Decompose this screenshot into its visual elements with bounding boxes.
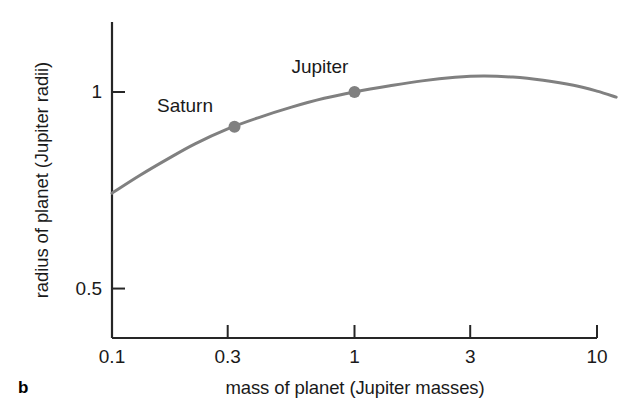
- x-tick-label-10: 10: [586, 346, 607, 368]
- point-annotation-saturn: Saturn: [157, 95, 213, 117]
- x-tick-label-0.1: 0.1: [99, 346, 125, 368]
- y-tick-label-1: 1: [20, 81, 102, 103]
- y-tick-label-0.5: 0.5: [20, 278, 102, 300]
- data-point-saturn: [229, 121, 241, 133]
- axes: [112, 22, 597, 338]
- data-curve: [112, 76, 616, 193]
- panel-letter: b: [18, 378, 28, 398]
- x-axis-label: mass of planet (Jupiter masses): [112, 377, 598, 399]
- x-tick-label-0.3: 0.3: [214, 346, 240, 368]
- figure-panel-b: radius of planet (Jupiter radii) mass of…: [0, 0, 640, 420]
- x-tick-label-3: 3: [465, 346, 476, 368]
- point-annotation-jupiter: Jupiter: [291, 56, 348, 78]
- data-point-jupiter: [349, 86, 361, 98]
- x-tick-label-1: 1: [349, 346, 360, 368]
- series-line-0: [112, 76, 616, 193]
- data-points: [229, 86, 361, 133]
